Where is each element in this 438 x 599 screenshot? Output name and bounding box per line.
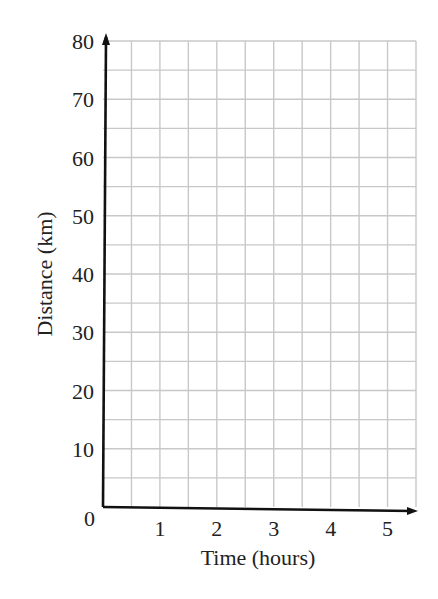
- y-tick-label: 40: [72, 262, 94, 287]
- x-axis-arrow-icon: [407, 507, 418, 515]
- y-tick-label: 30: [72, 320, 94, 345]
- y-tick-label: 10: [72, 437, 94, 462]
- x-tick-label: 2: [211, 516, 222, 541]
- y-axis-label: Distance (km): [32, 211, 57, 336]
- y-axis-arrow-icon: [102, 33, 110, 45]
- origin-label: 0: [84, 506, 95, 531]
- y-tick-label: 50: [72, 204, 94, 229]
- x-tick-label: 1: [154, 516, 165, 541]
- x-axis-line: [103, 507, 412, 511]
- distance-time-chart: 1020304050607080 12345 0 Time (hours) Di…: [0, 0, 438, 599]
- x-tick-labels: 12345: [154, 516, 393, 541]
- x-tick-label: 4: [325, 516, 336, 541]
- y-tick-label: 60: [72, 146, 94, 171]
- y-tick-label: 70: [72, 87, 94, 112]
- y-tick-label: 80: [72, 29, 94, 54]
- y-tick-label: 20: [72, 379, 94, 404]
- y-tick-labels: 1020304050607080: [72, 29, 94, 462]
- x-tick-label: 3: [268, 516, 279, 541]
- grid: [103, 41, 416, 507]
- x-axis-label: Time (hours): [201, 545, 316, 570]
- x-tick-label: 5: [382, 516, 393, 541]
- y-axis-line: [103, 37, 106, 507]
